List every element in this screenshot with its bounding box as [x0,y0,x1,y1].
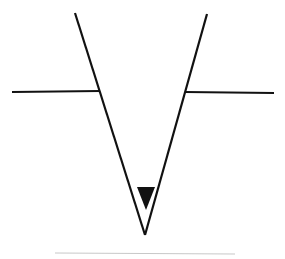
left-arm-line [75,13,145,235]
right-arm-line [145,14,207,235]
diagram-canvas [0,0,285,259]
diagram-svg [0,0,285,259]
baseline-line [55,253,235,254]
left-ledge-line [12,91,100,92]
right-ledge-line [185,92,274,93]
